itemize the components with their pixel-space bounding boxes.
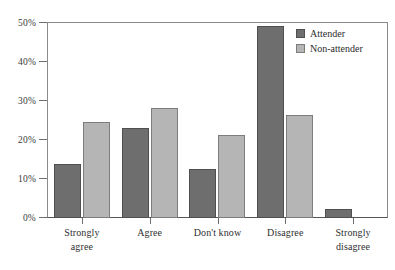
y-tick: 30% bbox=[0, 94, 47, 108]
bar-1 bbox=[83, 122, 110, 218]
y-tick-label: 10% bbox=[18, 172, 36, 186]
bar-0 bbox=[189, 169, 216, 218]
y-tick-label: 30% bbox=[18, 94, 36, 108]
y-tick-mark bbox=[39, 178, 47, 179]
x-axis-label: Stronglydisagree bbox=[319, 226, 387, 253]
legend-swatch-icon bbox=[296, 29, 305, 38]
x-tick-mark bbox=[150, 218, 151, 224]
x-tick-mark bbox=[218, 218, 219, 224]
clipped-title-remnant bbox=[0, 0, 395, 3]
y-tick-mark bbox=[39, 217, 47, 218]
x-axis-label: Agree bbox=[116, 226, 184, 240]
x-axis-label: Disagree bbox=[251, 226, 319, 240]
legend-item[interactable]: Attender bbox=[296, 28, 363, 39]
bar-0 bbox=[122, 128, 149, 218]
x-axis-ticks bbox=[48, 218, 387, 224]
y-tick-label: 50% bbox=[18, 16, 36, 30]
bar-group bbox=[116, 23, 184, 218]
y-tick-mark bbox=[39, 22, 47, 23]
x-tick-mark bbox=[82, 218, 83, 224]
bar-0 bbox=[257, 26, 284, 218]
bar-1 bbox=[286, 115, 313, 218]
x-axis-label-line: agree bbox=[48, 240, 116, 254]
y-tick: 10% bbox=[0, 172, 47, 186]
legend-swatch-icon bbox=[296, 44, 305, 53]
y-tick: 20% bbox=[0, 133, 47, 147]
x-axis-labels: StronglyagreeAgreeDon't knowDisagreeStro… bbox=[0, 226, 395, 270]
y-tick-mark bbox=[39, 100, 47, 101]
x-axis-label-line: Disagree bbox=[251, 226, 319, 240]
x-tick-mark bbox=[353, 218, 354, 224]
y-tick: 50% bbox=[0, 16, 47, 30]
x-axis-label-line: Strongly bbox=[319, 226, 387, 240]
chart-legend: AttenderNon-attender bbox=[296, 28, 363, 54]
bar-1 bbox=[151, 108, 178, 218]
bar-group bbox=[184, 23, 252, 218]
y-tick-label: 0% bbox=[23, 211, 36, 225]
x-axis-label-line: Agree bbox=[116, 226, 184, 240]
y-tick-label: 20% bbox=[18, 133, 36, 147]
x-tick-mark bbox=[285, 218, 286, 224]
bar-chart: 0%10%20%30%40%50% StronglyagreeAgreeDon'… bbox=[0, 0, 395, 270]
y-tick-label: 40% bbox=[18, 55, 36, 69]
y-tick: 0% bbox=[0, 211, 47, 225]
bar-1 bbox=[218, 135, 245, 218]
bar-group bbox=[48, 23, 116, 218]
y-tick-mark bbox=[39, 61, 47, 62]
x-axis-label: Stronglyagree bbox=[48, 226, 116, 253]
x-axis-label: Don't know bbox=[184, 226, 252, 240]
x-axis-label-line: Don't know bbox=[184, 226, 252, 240]
bar-0 bbox=[54, 164, 81, 218]
x-axis-label-line: disagree bbox=[319, 240, 387, 254]
x-axis-label-line: Strongly bbox=[48, 226, 116, 240]
y-axis: 0%10%20%30%40%50% bbox=[0, 0, 47, 240]
bar-0 bbox=[325, 209, 352, 218]
y-tick: 40% bbox=[0, 55, 47, 69]
legend-label: Attender bbox=[310, 28, 345, 39]
legend-item[interactable]: Non-attender bbox=[296, 43, 363, 54]
y-tick-mark bbox=[39, 139, 47, 140]
legend-label: Non-attender bbox=[310, 43, 363, 54]
